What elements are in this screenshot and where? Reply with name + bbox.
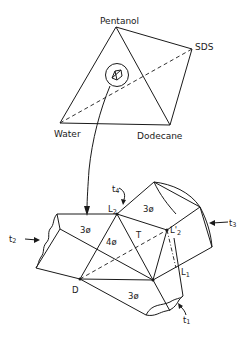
edge-water-sds-hidden [60,49,192,123]
prism-left-endcap-a [57,214,60,229]
edge-L2prime-L1 [153,230,167,280]
tetrahedron: Pentanol SDS Water Dodecane [54,16,214,216]
edge-sds-dodecane [170,49,192,125]
vertex-label-water: Water [54,129,81,139]
tie-label-t1: t1 [183,315,190,326]
point-L2prime [166,229,169,232]
zoom-arrow-curve [87,86,110,210]
edge-D-L1 [80,279,153,280]
point-D [79,278,82,281]
phase-diagram: Pentanol SDS Water Dodecane [0,0,248,341]
point-L1-vertex [152,279,155,282]
t4-arrow-head-icon [121,199,126,205]
point-label-L2prime: L'2 [170,225,181,237]
tie-label-t2: t2 [9,234,16,245]
tie-label-t3: t3 [229,218,236,229]
point-label-D: D [72,285,79,295]
prism-bottom-wavy-cut-inner [146,296,183,315]
t3-arrow-head-icon [209,220,215,226]
edge-L2prime-L1-hidden [167,230,176,268]
point-label-L1: L1 [181,267,190,279]
region-label-4phase: 4ø [106,237,117,247]
prism-left-endcap-b [36,229,60,268]
edge-pentanol-dodecane [116,27,170,125]
prism-right-curved-cut [154,182,212,247]
region-label-3phase-left: 3ø [80,225,91,235]
vertex-label-sds: SDS [195,42,214,52]
vertex-label-dodecane: Dodecane [137,131,183,141]
magnify-circle [106,64,129,87]
prism-left-bottom [36,268,80,279]
edge-pentanol-water [60,27,116,123]
region-label-3phase-top-right: 3ø [143,204,154,214]
region-label-3phase-bottom: 3ø [128,291,139,301]
t2-arrow-head-icon [34,237,40,243]
tie-label-t4: t4 [112,184,119,195]
detail-polyhedron: L2 L'2 L1 D T t4 t3 t2 t1 3ø 3ø 4ø 3ø [9,182,236,326]
vertex-label-pentanol: Pentanol [100,16,139,26]
edge-water-dodecane [60,123,170,125]
prism-left-wavy-cut [36,214,57,268]
edge-D-L2prime-hidden [80,230,167,279]
edge-pentanol-sds [116,27,192,49]
point-label-T: T [135,230,142,240]
prism-right-edge-2 [200,207,212,247]
mini-polyhedron-icon [112,70,122,80]
